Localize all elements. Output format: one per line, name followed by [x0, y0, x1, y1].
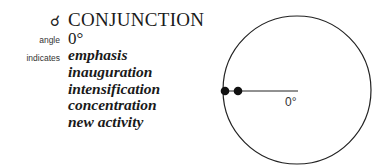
angle-degree-label: 0° [285, 95, 297, 109]
zodiac-circle [223, 16, 371, 164]
planet-point [234, 87, 243, 96]
planet-point [221, 87, 230, 96]
aspect-diagram: 0° [0, 0, 390, 168]
